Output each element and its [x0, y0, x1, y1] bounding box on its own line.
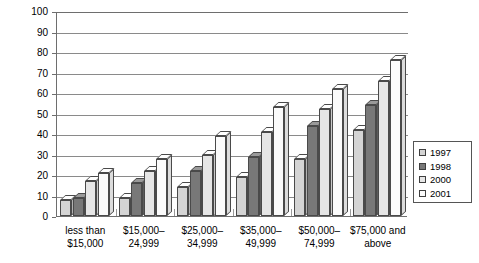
bar	[390, 60, 401, 216]
category-separator	[116, 209, 117, 216]
legend-swatch-icon	[419, 176, 426, 183]
bar-front	[215, 136, 226, 216]
bar	[177, 187, 188, 216]
bar-side-face	[343, 84, 348, 216]
x-axis-tick-labels: less than$15,000$15,000–24,999$25,000–34…	[56, 221, 414, 255]
bar-front	[332, 89, 343, 216]
category-separator	[350, 209, 351, 216]
bar-front	[248, 157, 259, 216]
bar-front	[119, 198, 130, 216]
gridline	[57, 33, 408, 34]
x-axis-tick-label: $75,000 andabove	[341, 225, 416, 250]
bar	[190, 171, 201, 216]
gridline	[57, 53, 408, 54]
y-axis-tick-label: 70	[18, 68, 48, 79]
figure: Percent of U.S. Households 0102030405060…	[0, 0, 479, 263]
y-axis-tick-label: 40	[18, 129, 48, 140]
bar	[98, 173, 109, 216]
bar-front	[378, 81, 389, 216]
bar	[60, 200, 71, 216]
bar	[261, 132, 272, 216]
bar	[353, 130, 364, 216]
bar	[202, 155, 213, 217]
gridline	[57, 115, 408, 116]
bar	[307, 126, 318, 216]
bar-side-face	[284, 103, 289, 216]
legend-swatch-icon	[419, 190, 426, 197]
bar	[248, 157, 259, 216]
category-separator	[233, 209, 234, 216]
bar-front	[319, 109, 330, 216]
bar-front	[202, 155, 213, 217]
legend-label: 1998	[430, 161, 451, 172]
bar	[294, 159, 305, 216]
bar	[156, 159, 167, 216]
legend: 1997199820002001	[413, 141, 472, 203]
bar	[365, 105, 376, 216]
y-axis-tick-label: 20	[18, 170, 48, 181]
y-axis-tick-label: 10	[18, 191, 48, 202]
legend-item[interactable]: 2000	[419, 173, 471, 187]
bar	[378, 81, 389, 216]
bar-front	[156, 159, 167, 216]
bar	[144, 171, 155, 216]
bar-front	[144, 171, 155, 216]
legend-swatch-icon	[419, 149, 426, 156]
y-axis-tick-label: 90	[18, 27, 48, 38]
gridline	[57, 74, 408, 75]
legend-item[interactable]: 2001	[419, 187, 471, 201]
bar-front	[353, 130, 364, 216]
bar-side-face	[401, 56, 406, 216]
bar	[273, 107, 284, 216]
bar-front	[190, 171, 201, 216]
bar-front	[273, 107, 284, 216]
y-axis-tick-mark	[52, 217, 56, 218]
bar-front	[236, 177, 247, 216]
bar-front	[294, 159, 305, 216]
bar	[215, 136, 226, 216]
bar-front	[98, 173, 109, 216]
bar	[73, 198, 84, 216]
bar-front	[261, 132, 272, 216]
bar-front	[177, 187, 188, 216]
legend-item[interactable]: 1997	[419, 146, 471, 160]
x-axis-label-line: above	[341, 238, 416, 251]
bar-front	[85, 181, 96, 216]
bar-side-face	[167, 154, 172, 216]
y-axis-tick-label: 80	[18, 47, 48, 58]
y-axis-tick-label: 0	[18, 211, 48, 222]
bar-front	[390, 60, 401, 216]
category-separator	[174, 209, 175, 216]
bar-front	[60, 200, 71, 216]
gridline	[57, 12, 408, 13]
category-separator	[291, 209, 292, 216]
bar	[319, 109, 330, 216]
y-axis-tick-label: 50	[18, 109, 48, 120]
x-axis-label-line: $75,000 and	[341, 225, 416, 238]
bar	[131, 183, 142, 216]
bar	[236, 177, 247, 216]
bar-front	[73, 198, 84, 216]
y-axis-tick-label: 100	[18, 6, 48, 17]
plot-area	[56, 12, 407, 217]
bar-side-face	[109, 168, 114, 216]
bar	[332, 89, 343, 216]
gridline	[57, 94, 408, 95]
bar-front	[131, 183, 142, 216]
legend-label: 2001	[430, 188, 451, 199]
legend-item[interactable]: 1998	[419, 160, 471, 174]
bar-side-face	[226, 132, 231, 216]
y-axis-tick-label: 60	[18, 88, 48, 99]
legend-label: 2000	[430, 174, 451, 185]
legend-label: 1997	[430, 147, 451, 158]
legend-swatch-icon	[419, 163, 426, 170]
y-axis-tick-label: 30	[18, 150, 48, 161]
bar	[85, 181, 96, 216]
bar-front	[365, 105, 376, 216]
bar	[119, 198, 130, 216]
bar-front	[307, 126, 318, 216]
